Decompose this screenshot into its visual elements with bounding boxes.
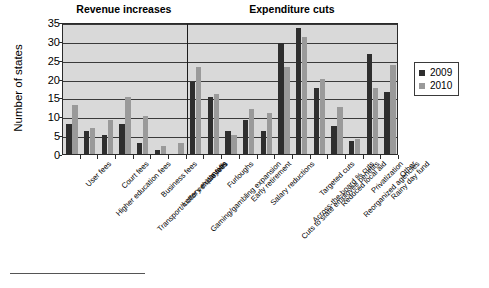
y-axis-tick-label: 10 [34, 112, 60, 123]
bar [208, 97, 213, 154]
bar [108, 120, 113, 154]
bar [231, 135, 236, 154]
bar [302, 37, 307, 154]
bar [267, 113, 272, 154]
x-axis-tick-mark [345, 155, 346, 159]
y-axis-tick-label: 5 [34, 131, 60, 142]
bar [243, 120, 248, 154]
footer-caption [10, 280, 480, 288]
y-axis-tick-label: 30 [34, 36, 60, 47]
x-axis-tick-mark [380, 155, 381, 159]
x-axis-tick-mark [257, 155, 258, 159]
plot-area [62, 23, 398, 155]
bar [72, 105, 77, 154]
bar [249, 109, 254, 154]
y-axis-tick-labels: 05101520253035 [30, 23, 60, 155]
y-axis-tick-mark [59, 136, 62, 137]
bar [337, 107, 342, 154]
bar [284, 67, 289, 154]
bar [349, 141, 354, 154]
x-axis-tick-label: Layoffs [206, 160, 229, 183]
bar-chart-figure: Number of states 05101520253035 2009 201… [0, 0, 489, 288]
y-axis-tick-mark [59, 155, 62, 156]
bar [161, 146, 166, 154]
bar [331, 126, 336, 154]
footer-divider [10, 273, 145, 274]
y-axis-tick-label: 0 [34, 150, 60, 161]
bar [225, 131, 230, 154]
x-axis-tick-mark [97, 155, 98, 159]
bar [296, 28, 301, 154]
y-axis-tick-mark [59, 80, 62, 81]
bar [214, 94, 219, 154]
y-axis-tick-mark [59, 61, 62, 62]
bar [155, 150, 160, 154]
legend-item-2010: 2010 [419, 79, 452, 92]
legend-label-2009: 2009 [430, 68, 452, 78]
bar [66, 124, 71, 154]
x-axis-tick-mark [221, 155, 222, 159]
bar [314, 88, 319, 154]
x-axis-tick-label: User fees [84, 160, 112, 188]
x-axis-tick-mark [363, 155, 364, 159]
y-axis-tick-label: 25 [34, 55, 60, 66]
bar [90, 128, 95, 154]
x-axis-tick-mark [398, 155, 399, 159]
x-axis-tick-mark [133, 155, 134, 159]
bars-layer [63, 24, 397, 154]
bar [119, 124, 124, 154]
bar [278, 43, 283, 154]
bar [84, 131, 89, 154]
y-axis-tick-mark [59, 23, 62, 24]
legend-swatch-icon-2009 [419, 70, 425, 76]
x-axis-tick-mark [239, 155, 240, 159]
x-axis-tick-mark [150, 155, 151, 159]
bar [125, 97, 130, 154]
bar [355, 139, 360, 154]
bar [384, 92, 389, 154]
x-axis-tick-mark [186, 155, 187, 159]
bar [190, 82, 195, 154]
bar [390, 65, 395, 154]
x-axis-tick-mark [292, 155, 293, 159]
section-caption: Revenue increases [62, 3, 186, 15]
y-axis-tick-label: 15 [34, 93, 60, 104]
bar [178, 143, 183, 154]
bar [143, 116, 148, 154]
legend-label-2010: 2010 [430, 81, 452, 91]
y-axis-tick-mark [59, 42, 62, 43]
x-axis-tick-mark [168, 155, 169, 159]
legend-swatch-icon-2010 [419, 83, 425, 89]
bar [102, 135, 107, 154]
y-axis-tick-mark [59, 117, 62, 118]
y-axis-title: Number of states [12, 23, 24, 153]
bar [196, 67, 201, 154]
x-axis-tick-mark [80, 155, 81, 159]
bar [367, 54, 372, 154]
x-axis-tick-mark [115, 155, 116, 159]
y-axis-tick-label: 35 [34, 18, 60, 29]
bar [320, 79, 325, 154]
x-axis-tick-mark [274, 155, 275, 159]
y-axis-tick-label: 20 [34, 74, 60, 85]
x-axis-tick-mark [327, 155, 328, 159]
x-axis-tick-mark [310, 155, 311, 159]
y-axis-tick-mark [59, 98, 62, 99]
section-caption: Expenditure cuts [186, 3, 398, 15]
bar [373, 88, 378, 154]
legend-item-2009: 2009 [419, 66, 452, 79]
legend: 2009 2010 [414, 62, 459, 96]
bar [261, 131, 266, 154]
bar [137, 143, 142, 154]
x-axis-tick-mark [203, 155, 204, 159]
